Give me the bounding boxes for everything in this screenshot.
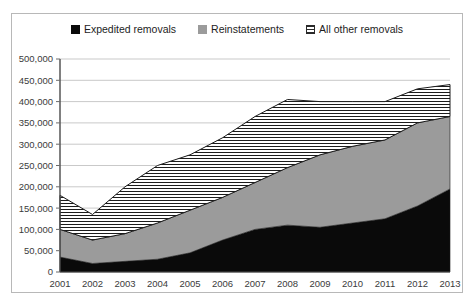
x-tick-label: 2004: [147, 278, 168, 289]
y-tick-label: 450,000: [19, 75, 53, 86]
y-tick-label: 250,000: [19, 160, 53, 171]
x-tick-label: 2008: [277, 278, 298, 289]
y-tick-label: 300,000: [19, 139, 53, 150]
y-tick-label: 100,000: [19, 224, 53, 235]
chart-container: Expedited removals Reinstatements All ot…: [11, 13, 463, 293]
plot-area-wrapper: 050,000100,000150,000200,000250,000300,0…: [12, 14, 464, 294]
y-axis-ticks: 050,000100,000150,000200,000250,000300,0…: [19, 53, 60, 277]
x-tick-label: 2002: [82, 278, 103, 289]
x-tick-label: 2009: [309, 278, 330, 289]
x-axis-ticks: 2001200220032004200520062007200820092010…: [49, 278, 460, 289]
y-tick-label: 500,000: [19, 53, 53, 64]
x-tick-label: 2006: [212, 278, 233, 289]
x-tick-label: 2012: [407, 278, 428, 289]
x-tick-label: 2013: [439, 278, 460, 289]
y-tick-label: 400,000: [19, 96, 53, 107]
y-tick-label: 150,000: [19, 203, 53, 214]
x-tick-label: 2003: [114, 278, 135, 289]
x-tick-label: 2001: [49, 278, 70, 289]
x-tick-label: 2007: [244, 278, 265, 289]
y-tick-label: 50,000: [24, 245, 53, 256]
x-tick-label: 2011: [375, 278, 395, 289]
y-tick-label: 200,000: [19, 181, 53, 192]
x-tick-label: 2010: [342, 278, 363, 289]
y-tick-label: 350,000: [19, 117, 53, 128]
area-series-group: [60, 85, 450, 272]
x-tick-label: 2005: [179, 278, 200, 289]
y-tick-label: 0: [48, 266, 53, 277]
stacked-area-chart: 050,000100,000150,000200,000250,000300,0…: [12, 14, 464, 294]
